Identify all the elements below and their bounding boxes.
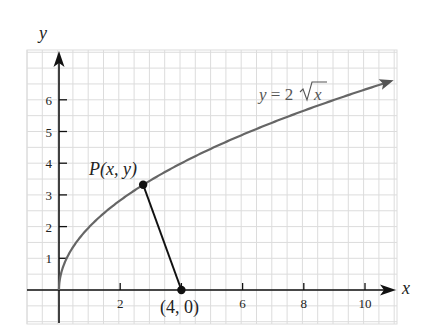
curve-label-y: y	[257, 85, 267, 104]
y-tick-label: 5	[46, 125, 53, 140]
diagram-canvas: 26810123456 y x P(x, y) (4, 0) y = 2 x	[0, 0, 428, 336]
grid-border	[27, 50, 397, 324]
x-axis-label: x	[401, 278, 410, 298]
curve-label-radicand: x	[313, 85, 322, 104]
curve-label-eq: = 2	[267, 85, 294, 104]
y-tick-label: 4	[46, 156, 53, 171]
sqrt-curve	[59, 82, 388, 290]
svg-text:y = 2: y = 2	[257, 85, 293, 104]
x-tick-label: 10	[359, 296, 372, 311]
x-tick-label: 2	[117, 296, 124, 311]
point-fixed-label: (4, 0)	[160, 297, 199, 318]
y-tick-label: 6	[46, 93, 53, 108]
x-tick-label: 6	[239, 296, 246, 311]
curve-label: y = 2 x	[257, 82, 327, 104]
point-p	[139, 181, 147, 189]
axes	[27, 51, 396, 323]
y-tick-label: 1	[46, 251, 53, 266]
x-tick-label: 8	[301, 296, 308, 311]
point-p-label: P(x, y)	[88, 159, 137, 180]
y-tick-label: 2	[46, 220, 53, 235]
y-axis-label: y	[37, 23, 47, 43]
point-fixed	[177, 286, 185, 294]
ticks: 26810123456	[46, 93, 372, 311]
y-tick-label: 3	[46, 188, 53, 203]
grid	[27, 50, 397, 324]
